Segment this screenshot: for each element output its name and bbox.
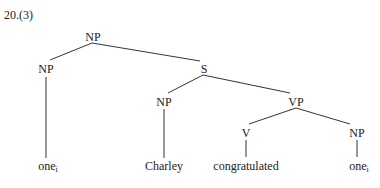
leaf-one-left: onei [38,160,58,172]
edge-s-to-np [168,75,203,93]
leaf-one-right: onei [349,160,369,172]
leaf-one-right-word: one [349,159,366,173]
node-inner-np: NP [156,96,171,108]
leaf-one-left-subscript: i [56,165,58,174]
node-left-np: NP [38,63,53,75]
leaf-one-left-word: one [38,159,55,173]
node-s: S [201,63,208,75]
node-root-np: NP [85,31,100,43]
node-v: V [242,127,251,139]
leaf-charley: Charley [145,160,183,172]
node-object-np: NP [349,127,364,139]
edge-s-to-vp [203,75,290,93]
leaf-congratulated: congratulated [213,160,278,172]
edge-root-to-left-np [50,43,92,60]
leaf-one-right-subscript: i [367,165,369,174]
edge-root-to-s [92,43,200,61]
edge-vp-to-v [249,108,296,124]
edge-vp-to-np [296,108,350,124]
node-vp: VP [288,96,303,108]
